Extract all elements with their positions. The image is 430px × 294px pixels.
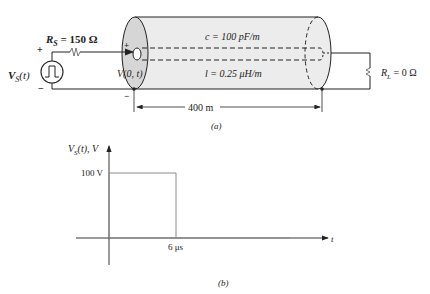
- pulse-chart: [76, 146, 328, 265]
- length-dimension: 400 m: [137, 102, 320, 113]
- figure-canvas: 400 m VS(t) + − RS = 150 Ω + − V(0, t) c…: [0, 0, 430, 294]
- transmission-line-figure: 400 m VS(t) + − RS = 150 Ω + − V(0, t) c…: [0, 0, 430, 294]
- input-voltage-label: V(0, t): [117, 68, 143, 80]
- source-resistor-icon: [70, 48, 80, 56]
- inductance-label: l = 0.25 μH/m: [205, 68, 262, 79]
- input-plus: +: [124, 40, 129, 50]
- input-minus: −: [124, 91, 129, 101]
- source-circuit: [41, 48, 136, 112]
- x-axis-label: t: [331, 234, 334, 244]
- y-axis-label: VS(t), V: [68, 143, 100, 157]
- length-label: 400 m: [188, 102, 214, 113]
- caption-b: (b): [218, 278, 229, 288]
- pulse-width-label: 6 μs: [168, 242, 184, 252]
- source-minus: −: [38, 83, 44, 94]
- pulse-level-label: 100 V: [81, 168, 104, 178]
- source-label: VS(t): [8, 69, 30, 84]
- load-resistor-icon: [366, 68, 370, 76]
- pulse-waveform: [109, 173, 176, 238]
- rl-label: RL = 0 Ω: [380, 67, 417, 81]
- caption-a: (a): [211, 121, 222, 131]
- source-plus: +: [37, 44, 43, 55]
- capacitance-label: c = 100 pF/m: [205, 31, 260, 42]
- pulse-source-icon: [41, 61, 63, 83]
- rs-label: RS = 150 Ω: [45, 33, 98, 48]
